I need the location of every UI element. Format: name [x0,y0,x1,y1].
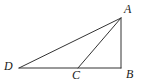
vertex-label-a: A [124,3,131,15]
vertex-label-b: B [126,68,133,80]
segment-DA [19,18,121,68]
segment-CA [78,18,121,68]
geometry-figure: A B C D [0,0,145,84]
vertex-label-d: D [4,60,13,72]
vertex-label-c: C [72,69,80,81]
